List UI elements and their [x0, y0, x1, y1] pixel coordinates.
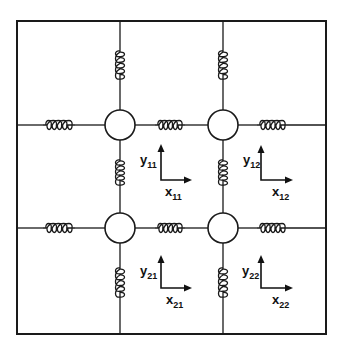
x-arrow-icon [285, 285, 293, 292]
x-label-12: x12 [272, 184, 289, 202]
y-arrow-icon [258, 255, 265, 263]
y-arrow-icon [158, 255, 165, 263]
connector-wires [17, 21, 326, 334]
coordinate-axes-21: y21 x21 [140, 255, 192, 310]
x-arrow-icon [184, 177, 192, 184]
x-label-11: x11 [165, 184, 182, 202]
axis-lines-21 [161, 260, 187, 288]
y-label-21: y21 [140, 263, 157, 281]
y-label-11: y11 [140, 152, 157, 170]
x-arrow-icon [285, 177, 293, 184]
mass-node-12 [208, 110, 238, 140]
y-label-22: y22 [242, 263, 259, 281]
spring-left-11-icon [43, 121, 75, 130]
mass-spring-lattice-diagram: y11 x11 y12 x12 y21 x21 y22 [0, 0, 339, 351]
spring-mid-21-22-icon [155, 224, 185, 233]
x-arrow-icon [184, 285, 192, 292]
x-label-22: x22 [272, 292, 289, 310]
spring-bottom-21-icon [116, 265, 125, 300]
spring-mid-12-22-icon [219, 157, 228, 188]
axis-lines-11 [161, 149, 187, 180]
spring-bottom-22-icon [219, 265, 228, 300]
axis-lines-12 [261, 150, 288, 180]
coordinate-axes-22: y22 x22 [242, 255, 293, 310]
spring-mid-11-12-icon [155, 121, 185, 130]
x-label-21: x21 [166, 292, 183, 310]
coordinate-axes-12: y12 x12 [243, 145, 293, 202]
outer-frame [17, 21, 326, 334]
y-arrow-icon [158, 144, 165, 152]
springs-group [43, 48, 288, 300]
y-label-12: y12 [243, 152, 260, 170]
mass-node-21 [105, 213, 135, 243]
axis-lines-22 [261, 260, 288, 288]
spring-top-11-icon [116, 48, 125, 82]
spring-right-22-icon [257, 224, 288, 233]
mass-node-11 [105, 110, 135, 140]
spring-right-12-icon [257, 121, 288, 130]
y-arrow-icon [258, 145, 265, 153]
spring-top-12-icon [219, 48, 228, 82]
coordinate-axes-11: y11 x11 [140, 144, 192, 202]
spring-left-21-icon [43, 224, 75, 233]
spring-mid-11-21-icon [116, 157, 125, 188]
mass-node-22 [208, 213, 238, 243]
